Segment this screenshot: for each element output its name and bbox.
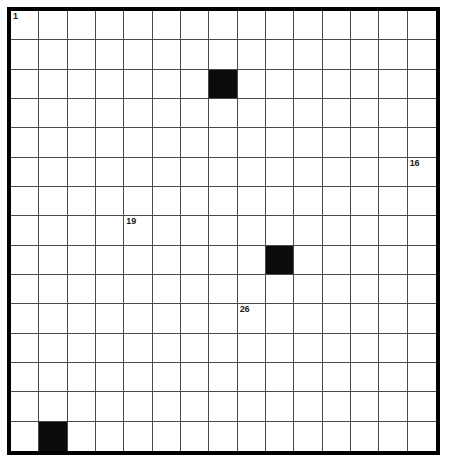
crossword-cell[interactable] bbox=[153, 246, 181, 275]
crossword-cell[interactable] bbox=[124, 363, 152, 392]
crossword-cell[interactable] bbox=[323, 392, 351, 421]
crossword-cell[interactable] bbox=[39, 334, 67, 363]
crossword-cell[interactable] bbox=[379, 304, 407, 333]
crossword-cell[interactable] bbox=[39, 275, 67, 304]
crossword-cell[interactable] bbox=[351, 158, 379, 187]
crossword-cell[interactable] bbox=[39, 246, 67, 275]
crossword-cell[interactable] bbox=[379, 99, 407, 128]
crossword-cell[interactable] bbox=[124, 246, 152, 275]
crossword-cell[interactable] bbox=[124, 99, 152, 128]
crossword-cell[interactable] bbox=[39, 158, 67, 187]
crossword-cell[interactable] bbox=[153, 216, 181, 245]
crossword-cell[interactable] bbox=[96, 275, 124, 304]
crossword-cell[interactable] bbox=[266, 11, 294, 40]
crossword-cell[interactable] bbox=[408, 246, 436, 275]
crossword-cell[interactable] bbox=[209, 99, 237, 128]
crossword-cell[interactable] bbox=[124, 128, 152, 157]
crossword-cell[interactable] bbox=[96, 246, 124, 275]
crossword-cell[interactable] bbox=[153, 40, 181, 69]
crossword-cell[interactable] bbox=[124, 422, 152, 451]
crossword-cell[interactable] bbox=[68, 392, 96, 421]
crossword-cell[interactable] bbox=[96, 422, 124, 451]
crossword-cell[interactable] bbox=[323, 11, 351, 40]
crossword-cell[interactable] bbox=[266, 304, 294, 333]
crossword-cell[interactable] bbox=[238, 11, 266, 40]
crossword-cell[interactable] bbox=[181, 422, 209, 451]
crossword-cell[interactable] bbox=[11, 392, 39, 421]
crossword-grid[interactable]: 1161926 bbox=[11, 11, 436, 451]
crossword-cell[interactable] bbox=[294, 363, 322, 392]
crossword-cell[interactable] bbox=[68, 187, 96, 216]
crossword-cell[interactable] bbox=[266, 158, 294, 187]
crossword-cell[interactable] bbox=[351, 246, 379, 275]
crossword-cell[interactable] bbox=[209, 216, 237, 245]
crossword-cell[interactable] bbox=[39, 216, 67, 245]
crossword-cell[interactable] bbox=[181, 158, 209, 187]
crossword-cell[interactable] bbox=[238, 70, 266, 99]
crossword-cell[interactable] bbox=[238, 392, 266, 421]
crossword-cell[interactable] bbox=[96, 11, 124, 40]
crossword-cell[interactable] bbox=[266, 392, 294, 421]
crossword-cell[interactable] bbox=[39, 128, 67, 157]
crossword-cell[interactable] bbox=[351, 216, 379, 245]
crossword-cell[interactable] bbox=[323, 275, 351, 304]
crossword-cell[interactable] bbox=[124, 392, 152, 421]
crossword-cell[interactable] bbox=[294, 304, 322, 333]
crossword-cell[interactable] bbox=[408, 275, 436, 304]
crossword-cell[interactable] bbox=[379, 275, 407, 304]
crossword-cell[interactable] bbox=[351, 363, 379, 392]
crossword-cell[interactable] bbox=[238, 99, 266, 128]
crossword-cell[interactable] bbox=[153, 304, 181, 333]
crossword-cell[interactable] bbox=[181, 128, 209, 157]
crossword-cell[interactable] bbox=[379, 128, 407, 157]
crossword-cell[interactable] bbox=[294, 422, 322, 451]
crossword-cell[interactable] bbox=[209, 128, 237, 157]
crossword-cell[interactable] bbox=[266, 363, 294, 392]
crossword-cell[interactable] bbox=[39, 304, 67, 333]
crossword-cell[interactable] bbox=[11, 246, 39, 275]
crossword-cell[interactable] bbox=[379, 422, 407, 451]
crossword-cell[interactable] bbox=[68, 99, 96, 128]
crossword-cell[interactable] bbox=[351, 70, 379, 99]
crossword-cell[interactable] bbox=[209, 246, 237, 275]
crossword-cell[interactable] bbox=[209, 11, 237, 40]
crossword-cell[interactable] bbox=[11, 128, 39, 157]
crossword-cell[interactable] bbox=[379, 158, 407, 187]
crossword-cell[interactable] bbox=[379, 363, 407, 392]
crossword-cell[interactable] bbox=[266, 99, 294, 128]
crossword-cell[interactable] bbox=[209, 158, 237, 187]
crossword-cell[interactable] bbox=[68, 275, 96, 304]
crossword-cell[interactable] bbox=[68, 70, 96, 99]
crossword-cell[interactable] bbox=[266, 275, 294, 304]
crossword-cell[interactable] bbox=[11, 187, 39, 216]
crossword-cell[interactable] bbox=[408, 11, 436, 40]
crossword-cell[interactable] bbox=[294, 216, 322, 245]
crossword-cell[interactable] bbox=[323, 187, 351, 216]
crossword-cell[interactable] bbox=[11, 216, 39, 245]
crossword-cell[interactable] bbox=[181, 40, 209, 69]
crossword-cell[interactable] bbox=[153, 392, 181, 421]
crossword-cell[interactable] bbox=[351, 187, 379, 216]
crossword-cell[interactable] bbox=[181, 70, 209, 99]
crossword-cell[interactable] bbox=[323, 246, 351, 275]
crossword-cell[interactable] bbox=[238, 275, 266, 304]
crossword-cell[interactable] bbox=[351, 275, 379, 304]
crossword-cell[interactable] bbox=[124, 275, 152, 304]
crossword-cell[interactable] bbox=[379, 70, 407, 99]
crossword-cell[interactable] bbox=[39, 70, 67, 99]
crossword-cell[interactable] bbox=[294, 158, 322, 187]
crossword-cell[interactable] bbox=[181, 187, 209, 216]
crossword-cell[interactable] bbox=[11, 422, 39, 451]
crossword-cell[interactable] bbox=[294, 40, 322, 69]
crossword-cell[interactable] bbox=[238, 128, 266, 157]
crossword-cell[interactable] bbox=[11, 99, 39, 128]
crossword-cell[interactable]: 1 bbox=[11, 11, 39, 40]
crossword-cell[interactable] bbox=[153, 187, 181, 216]
crossword-cell[interactable] bbox=[209, 422, 237, 451]
crossword-cell[interactable] bbox=[209, 187, 237, 216]
crossword-cell[interactable] bbox=[238, 40, 266, 69]
crossword-cell[interactable] bbox=[379, 40, 407, 69]
crossword-cell[interactable] bbox=[323, 40, 351, 69]
crossword-cell[interactable] bbox=[266, 40, 294, 69]
crossword-cell[interactable] bbox=[351, 334, 379, 363]
